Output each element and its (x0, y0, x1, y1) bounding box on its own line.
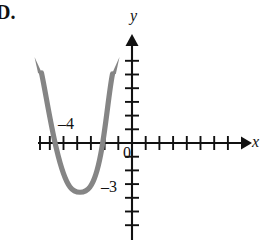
y-axis (126, 34, 139, 240)
parabola-curve (35, 57, 120, 192)
y-axis-arrowhead (126, 34, 139, 46)
multiple-choice-graph-figure: D. y x –4 0 –3 (0, 0, 274, 245)
vertex-value-label: –3 (101, 179, 117, 195)
origin-label: 0 (123, 145, 131, 161)
y-axis-label: y (130, 8, 137, 24)
choice-letter: D. (0, 2, 15, 22)
x-axis-label: x (252, 134, 259, 150)
x-axis-arrowhead (241, 137, 252, 150)
x-intercept-label: –4 (58, 116, 74, 132)
coordinate-plane (0, 0, 274, 245)
